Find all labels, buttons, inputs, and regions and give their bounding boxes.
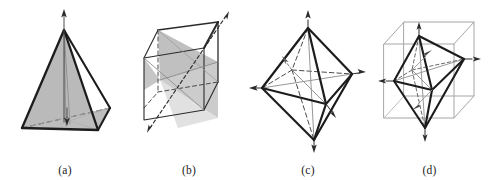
octahedron-hidden-edge-1 [292, 28, 308, 70]
octahedron-d-hidden-edge-3 [412, 59, 464, 70]
figure-panel-row: (a) [0, 0, 491, 180]
octahedron-d-axis-arrow-left-icon [378, 79, 386, 84]
octahedron-in-cube-drawing [368, 0, 491, 160]
octahedron-axis-arrow-right-icon [357, 69, 366, 74]
octahedron-drawing [248, 0, 368, 160]
octahedron-axis-depth-front [326, 104, 332, 112]
panel-octahedron-in-cube: (d) [368, 0, 491, 180]
octahedron-edge-equator-right [326, 74, 352, 104]
octahedron-edge-top-right [308, 28, 352, 74]
panel-caption-a: (a) [0, 164, 130, 176]
panel-tetrahedron: (a) [0, 0, 130, 180]
cube-hidden-edge-depth [144, 92, 158, 108]
cube-drawing [130, 0, 248, 160]
octahedron-axis-horizontal-right [352, 73, 358, 74]
panel-caption-c: (c) [248, 164, 368, 176]
octahedron-axis-arrow-up-icon [305, 10, 310, 19]
panel-caption-b: (b) [130, 164, 248, 176]
tetrahedron-shaded-plane-front [22, 30, 98, 130]
inscribing-cube-connect-bl [384, 96, 404, 118]
octahedron-edge-bottom-right [314, 74, 352, 140]
inscribing-cube-connect-tr [454, 22, 474, 44]
octahedron-internal-diagonal-1 [262, 74, 352, 88]
inscribing-cube-connect-br [454, 96, 474, 118]
inscribing-cube-connect-tl [384, 22, 404, 44]
octahedron-edge-top-front [308, 28, 326, 104]
cube-connect-edge-tl [144, 30, 158, 58]
octahedron-axis-depth-back [286, 62, 292, 70]
tetrahedron-drawing [0, 0, 130, 160]
panel-cube: (b) [130, 0, 248, 180]
panel-caption-d: (d) [368, 164, 491, 176]
octahedron-edge-equator-left [262, 88, 326, 104]
octahedron-hidden-edge-3 [292, 70, 352, 74]
octahedron-d-axis-arrow-back-icon [423, 50, 432, 58]
panel-octahedron: (c) [248, 0, 368, 180]
